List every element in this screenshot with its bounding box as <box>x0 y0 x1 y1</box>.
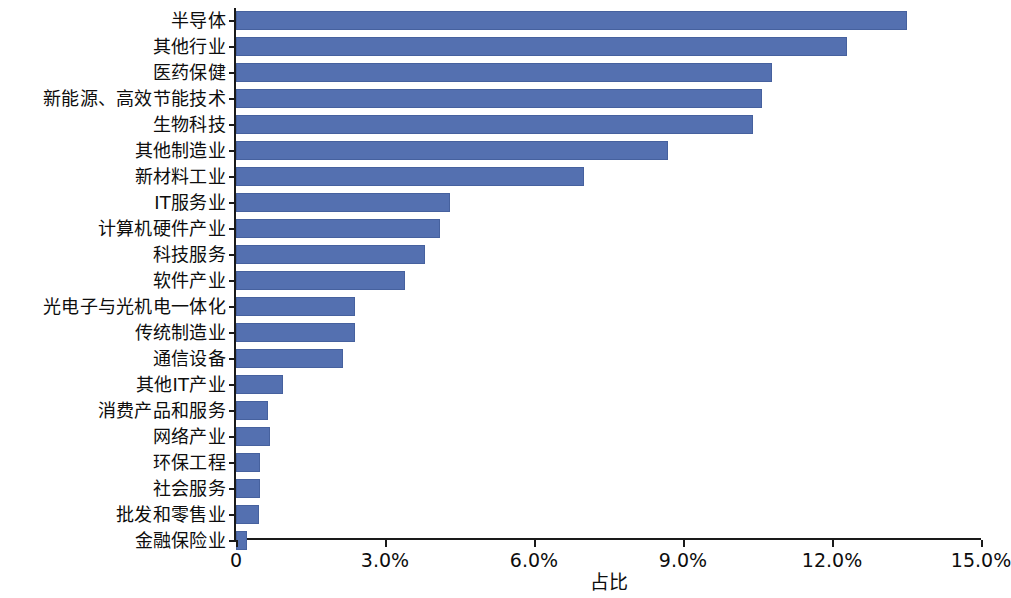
value-tick <box>981 540 983 547</box>
category-tick <box>229 280 236 282</box>
bar-row: 传统制造业 <box>236 320 981 346</box>
category-tick <box>229 98 236 100</box>
category-label: 新能源、高效节能技术 <box>43 86 226 112</box>
category-label: 社会服务 <box>153 476 226 502</box>
bar <box>236 427 270 446</box>
category-label: 传统制造业 <box>135 320 227 346</box>
category-label: 消费产品和服务 <box>98 398 226 424</box>
category-tick <box>229 46 236 48</box>
category-tick <box>229 228 236 230</box>
category-tick <box>229 332 236 334</box>
bar <box>236 271 405 290</box>
bar-row: 环保工程 <box>236 450 981 476</box>
category-tick <box>229 20 236 22</box>
category-tick <box>229 462 236 464</box>
bar-row: 新能源、高效节能技术 <box>236 86 981 112</box>
plot-area: 半导体其他行业医药保健新能源、高效节能技术生物科技其他制造业新材料工业IT服务业… <box>236 8 981 536</box>
bar-row: 网络产业 <box>236 424 981 450</box>
bar <box>236 453 260 472</box>
x-axis-title: 占比 <box>236 567 981 594</box>
category-tick <box>229 202 236 204</box>
bar-row: 新材料工业 <box>236 164 981 190</box>
bar <box>236 167 584 186</box>
value-tick <box>534 540 536 547</box>
category-tick <box>229 254 236 256</box>
bar <box>236 193 450 212</box>
bar <box>236 323 355 342</box>
category-label: 新材料工业 <box>135 164 227 190</box>
bar <box>236 115 753 134</box>
bar-row: 计算机硬件产业 <box>236 216 981 242</box>
bar <box>236 479 260 498</box>
bar-row: 光电子与光机电一体化 <box>236 294 981 320</box>
bar-row: 批发和零售业 <box>236 502 981 528</box>
category-tick <box>229 384 236 386</box>
bar-row: 科技服务 <box>236 242 981 268</box>
category-label: 金融保险业 <box>135 528 227 554</box>
category-label: 网络产业 <box>153 424 226 450</box>
category-label: 科技服务 <box>153 242 226 268</box>
bar-row: 半导体 <box>236 8 981 34</box>
category-label: 医药保健 <box>153 60 226 86</box>
bar-row: 其他IT产业 <box>236 372 981 398</box>
bar <box>236 37 847 56</box>
bar <box>236 63 772 82</box>
bar <box>236 401 268 420</box>
category-label: 光电子与光机电一体化 <box>43 294 226 320</box>
category-tick <box>229 358 236 360</box>
bar-row: 软件产业 <box>236 268 981 294</box>
category-label: 环保工程 <box>153 450 226 476</box>
bar-row: 通信设备 <box>236 346 981 372</box>
category-label: 软件产业 <box>153 268 226 294</box>
bar-row: 消费产品和服务 <box>236 398 981 424</box>
bar-row: 社会服务 <box>236 476 981 502</box>
category-label: IT服务业 <box>154 190 226 216</box>
category-label: 其他IT产业 <box>136 372 226 398</box>
bar <box>236 349 343 368</box>
bar-row: 医药保健 <box>236 60 981 86</box>
bar <box>236 297 355 316</box>
value-tick <box>832 540 834 547</box>
value-tick <box>236 540 238 547</box>
category-tick <box>229 514 236 516</box>
bar <box>236 141 668 160</box>
bar <box>236 11 907 30</box>
category-tick <box>229 436 236 438</box>
category-tick <box>229 540 236 542</box>
bar-row: 其他行业 <box>236 34 981 60</box>
category-tick <box>229 488 236 490</box>
bar-row: 生物科技 <box>236 112 981 138</box>
bar <box>236 89 762 108</box>
category-tick <box>229 124 236 126</box>
bar <box>236 505 259 524</box>
bar <box>236 245 425 264</box>
category-label: 生物科技 <box>153 112 226 138</box>
value-tick <box>385 540 387 547</box>
category-tick <box>229 150 236 152</box>
category-tick <box>229 176 236 178</box>
category-tick <box>229 72 236 74</box>
category-tick <box>229 306 236 308</box>
category-label: 计算机硬件产业 <box>98 216 226 242</box>
value-tick <box>683 540 685 547</box>
bar-row: IT服务业 <box>236 190 981 216</box>
bar <box>236 375 283 394</box>
bar-row: 其他制造业 <box>236 138 981 164</box>
category-label: 其他制造业 <box>135 138 227 164</box>
bar <box>236 219 440 238</box>
category-label: 其他行业 <box>153 34 226 60</box>
category-label: 批发和零售业 <box>116 502 226 528</box>
category-tick <box>229 410 236 412</box>
category-label: 半导体 <box>171 8 226 34</box>
category-label: 通信设备 <box>153 346 226 372</box>
